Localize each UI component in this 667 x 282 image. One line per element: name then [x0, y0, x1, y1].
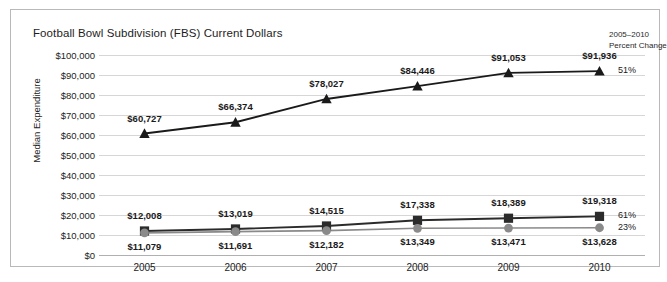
data-label: $11,079 — [128, 241, 162, 252]
data-label: $13,349 — [400, 236, 434, 247]
series-plot — [99, 55, 645, 255]
series-line-triangle — [145, 71, 600, 133]
x-axis-tick: 2005 — [133, 262, 155, 273]
y-axis-tick: $10,000 — [61, 230, 95, 241]
circle-marker — [322, 226, 331, 235]
data-label: $11,691 — [219, 240, 253, 251]
data-label: $14,515 — [309, 205, 343, 216]
y-axis-tick: $30,000 — [61, 190, 95, 201]
data-label: $13,628 — [582, 236, 616, 247]
x-axis-line — [99, 255, 645, 256]
data-label: $91,053 — [491, 52, 525, 63]
x-axis-tick: 2008 — [406, 262, 428, 273]
data-label: $60,727 — [127, 113, 161, 124]
y-axis-tick: $70,000 — [61, 110, 95, 121]
chart-title: Football Bowl Subdivision (FBS) Current … — [33, 27, 283, 39]
percent-change-value: 23% — [618, 222, 636, 232]
y-axis-tick: $50,000 — [61, 150, 95, 161]
chart-panel: Football Bowl Subdivision (FBS) Current … — [10, 9, 660, 267]
y-axis-tick: $40,000 — [61, 170, 95, 181]
square-marker — [595, 212, 604, 221]
percent-change-header-line1: 2005–2010 — [609, 30, 667, 41]
data-label: $13,019 — [218, 208, 252, 219]
circle-marker — [413, 224, 422, 233]
circle-marker — [504, 224, 513, 233]
y-axis-tick: $90,000 — [61, 70, 95, 81]
x-axis-tick-labels: 200520062007200820092010 — [99, 262, 645, 280]
circle-marker — [231, 227, 240, 236]
data-label: $66,374 — [218, 101, 252, 112]
y-axis-tick: $0 — [84, 250, 95, 261]
data-label: $13,471 — [491, 236, 525, 247]
percent-change-value: 61% — [618, 210, 636, 220]
circle-marker — [140, 228, 149, 237]
x-axis-tick: 2007 — [315, 262, 337, 273]
data-label: $12,182 — [309, 239, 343, 250]
data-label: $84,446 — [400, 65, 434, 76]
x-axis-tick: 2009 — [497, 262, 519, 273]
data-label: $19,318 — [582, 195, 616, 206]
square-marker — [413, 216, 422, 225]
x-axis-tick: 2006 — [224, 262, 246, 273]
x-axis-tick: 2010 — [588, 262, 610, 273]
data-label: $78,027 — [309, 78, 343, 89]
y-axis-tick: $20,000 — [61, 210, 95, 221]
y-axis-tick: $100,000 — [55, 50, 95, 61]
percent-change-header: 2005–2010 Percent Change — [609, 30, 667, 51]
data-label: $91,936 — [582, 50, 616, 61]
percent-change-header-line2: Percent Change — [609, 41, 667, 52]
data-label: $12,008 — [127, 210, 161, 221]
data-label: $18,389 — [491, 197, 525, 208]
square-marker — [504, 214, 513, 223]
y-axis-tick-labels: $100,000$90,000$80,000$70,000$60,000$50,… — [11, 55, 95, 255]
y-axis-tick: $60,000 — [61, 130, 95, 141]
percent-change-value: 51% — [618, 65, 636, 75]
y-axis-tick: $80,000 — [61, 90, 95, 101]
data-label: $17,338 — [400, 199, 434, 210]
circle-marker — [595, 223, 604, 232]
